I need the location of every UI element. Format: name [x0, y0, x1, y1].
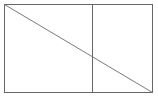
- drawing-canvas: [0, 0, 158, 98]
- line-drawing-figure: [0, 0, 158, 98]
